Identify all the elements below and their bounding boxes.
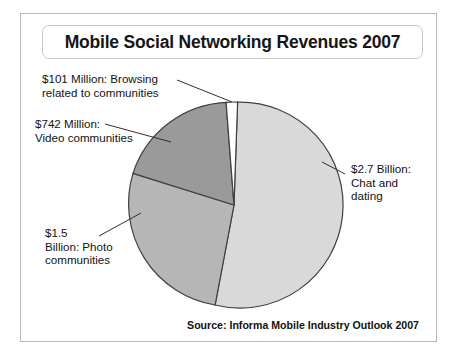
chart-figure: Mobile Social Networking Revenues 2007 $… xyxy=(20,13,437,342)
callout-label-photo-communities: $1.5 Billion: Photo communities xyxy=(45,226,113,267)
leader-line-browsing xyxy=(177,80,232,102)
callout-label-browsing: $101 Million: Browsing related to commun… xyxy=(42,72,159,99)
callout-label-video-communities: $742 Million: Video communities xyxy=(35,117,133,144)
source-attribution: Source: Informa Mobile Industry Outlook … xyxy=(187,319,419,331)
callout-label-chat-and-dating: $2.7 Billion: Chat and dating xyxy=(351,162,411,203)
